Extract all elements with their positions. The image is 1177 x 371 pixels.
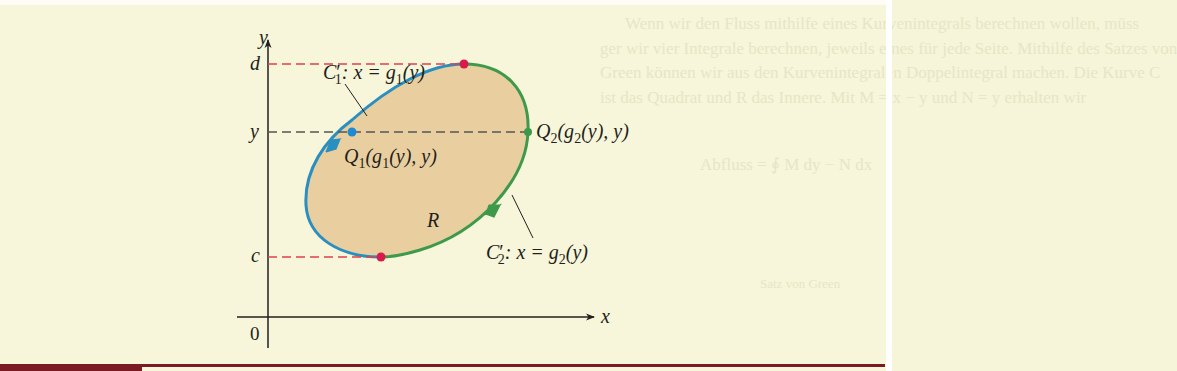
bottom-rule-line: [142, 364, 885, 367]
y-axis-label: y: [257, 26, 268, 49]
top-point-d: [460, 60, 469, 69]
d-label: d: [250, 52, 261, 74]
y-level-label: y: [248, 120, 259, 143]
point-q1: [348, 128, 357, 137]
c2-direction-arrow-icon: [486, 205, 500, 217]
x-axis-label: x: [600, 305, 610, 327]
region-r-label: R: [426, 209, 439, 231]
c1-leader-line: [345, 84, 367, 116]
point-q2: [524, 128, 532, 136]
c2-leader-line: [512, 195, 533, 238]
bottom-rule-block: [0, 364, 142, 371]
q2-label: Q2(g2(y), y): [536, 120, 629, 146]
bottom-point-c: [377, 253, 386, 262]
c2-label: C′2: x = g2(y): [486, 241, 588, 267]
page-right-edge: [886, 0, 892, 371]
c-label: c: [251, 244, 260, 266]
origin-label: 0: [250, 323, 260, 344]
